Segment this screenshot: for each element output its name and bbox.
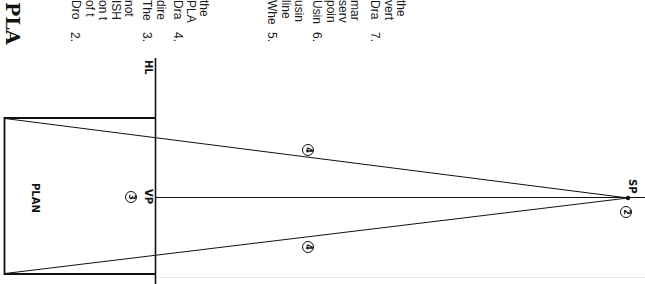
station-point-dot [626,196,630,200]
station-point-label: SP [627,179,637,194]
plan-label: PLAN [30,183,40,213]
page-edge-divider [160,277,645,278]
vanishing-point-label: VP [143,189,153,204]
perspective-construction-drawing [0,0,645,284]
callout-step-3: 3 [125,191,137,203]
callout-step-4-upper: 4 [302,144,314,156]
horizon-line-label: HL [143,60,153,75]
lower-projection-ray [5,198,628,274]
callout-step-2: 2 [620,206,632,218]
perspective-plan-diagram-page: PLA 2. Dro of t on t ISH not 3. The dire… [0,0,645,284]
upper-projection-ray [5,119,628,199]
callout-step-4-lower: 4 [302,241,314,253]
